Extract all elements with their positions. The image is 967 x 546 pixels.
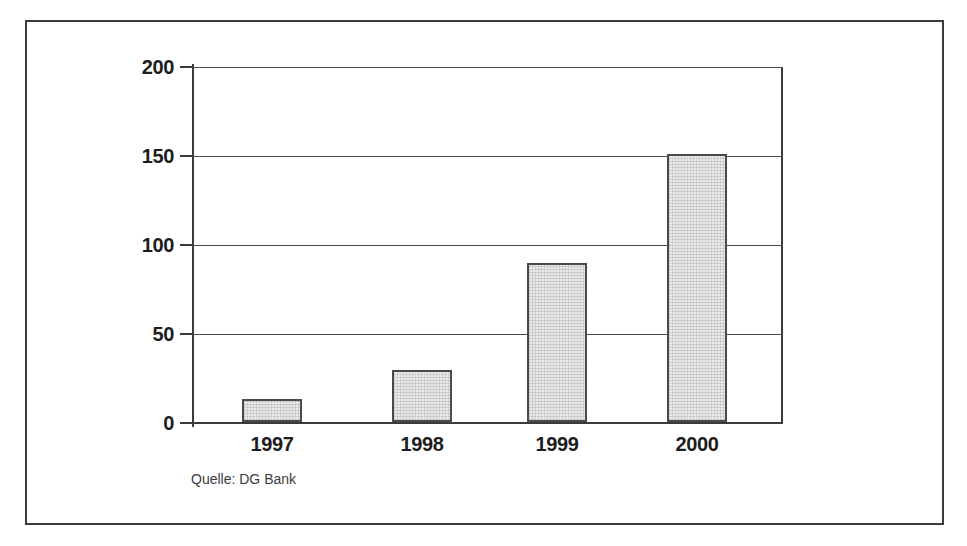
y-tick-label-50: 50 <box>153 323 174 346</box>
bar-1999 <box>527 263 587 422</box>
y-tick-label-150: 150 <box>142 145 174 168</box>
y-tickmark-200 <box>180 66 192 68</box>
bar-2000 <box>667 154 727 422</box>
y-tickmark-50 <box>180 333 192 335</box>
y-tickmark-150 <box>180 155 192 157</box>
bar-1997 <box>242 399 302 422</box>
chart-figure: 200 150 100 50 0 1997 1998 1999 2000 Que… <box>0 0 967 546</box>
figure-frame-border: 200 150 100 50 0 1997 1998 1999 2000 Que… <box>25 20 944 525</box>
x-tick-label-1999: 1999 <box>536 433 579 456</box>
x-axis-baseline <box>180 422 783 424</box>
x-tick-label-2000: 2000 <box>676 433 719 456</box>
source-note: Quelle: DG Bank <box>191 471 296 487</box>
y-tick-label-100: 100 <box>142 234 174 257</box>
bar-1998 <box>392 370 452 422</box>
y-tick-label-200: 200 <box>142 56 174 79</box>
x-tick-label-1998: 1998 <box>401 433 444 456</box>
y-tickmark-0 <box>180 422 192 424</box>
y-tickmark-100 <box>180 244 192 246</box>
x-tick-label-1997: 1997 <box>251 433 294 456</box>
gridline-200 <box>192 67 783 68</box>
plot-area: 200 150 100 50 0 1997 1998 1999 2000 <box>192 67 783 424</box>
y-tick-label-0: 0 <box>163 412 174 435</box>
